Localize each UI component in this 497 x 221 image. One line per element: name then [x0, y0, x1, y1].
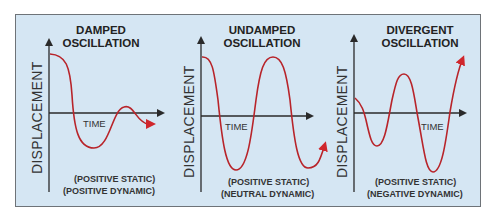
- panel-damped: DAMPED OSCILLATION DISPLACEMENT TIME (PO…: [29, 24, 163, 196]
- panel-divergent: DIVERGENT OSCILLATION DISPLACEMENT TIME …: [334, 24, 465, 199]
- x-axis-label: TIME: [83, 118, 106, 129]
- note-line1: (POSITIVE STATIC): [228, 177, 309, 187]
- damped-curve: [50, 54, 153, 148]
- note-line2: (NEUTRAL DYNAMIC): [221, 189, 314, 199]
- panel-title-line1: DAMPED: [76, 24, 126, 36]
- y-axis-label: DISPLACEMENT: [29, 61, 45, 174]
- panel-title-line1: UNDAMPED: [229, 24, 295, 36]
- note-line2: (POSITIVE DYNAMIC): [63, 186, 155, 196]
- note-line1: (POSITIVE STATIC): [375, 177, 456, 187]
- panel-title-line2: OSCILLATION: [381, 37, 458, 49]
- y-axis-label: DISPLACEMENT: [334, 65, 350, 178]
- panel-title-line2: OSCILLATION: [62, 37, 139, 49]
- y-axis-label: DISPLACEMENT: [181, 65, 197, 178]
- panel-undamped: UNDAMPED OSCILLATION DISPLACEMENT TIME (…: [181, 24, 325, 199]
- x-axis-label: TIME: [225, 121, 248, 132]
- note-line2: (NEGATIVE DYNAMIC): [367, 189, 463, 199]
- x-axis-label: TIME: [421, 121, 444, 132]
- divergent-curve: [355, 58, 463, 172]
- oscillation-diagram: DAMPED OSCILLATION DISPLACEMENT TIME (PO…: [0, 0, 497, 221]
- note-line1: (POSITIVE STATIC): [74, 174, 155, 184]
- undamped-curve: [202, 57, 325, 170]
- panel-title-line1: DIVERGENT: [386, 24, 453, 36]
- panel-title-line2: OSCILLATION: [223, 37, 300, 49]
